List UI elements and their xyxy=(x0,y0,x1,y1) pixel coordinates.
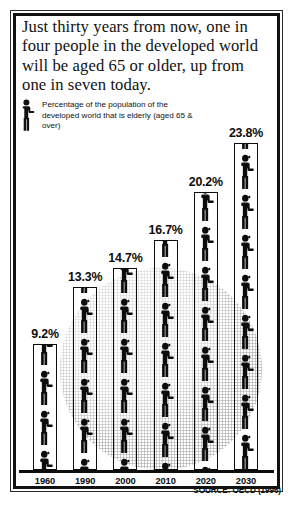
bar-1990 xyxy=(73,287,97,470)
bar-1960 xyxy=(33,344,57,471)
source-note: SOURCE: OECD (1996) xyxy=(193,486,281,495)
person-figure-icon xyxy=(114,377,136,417)
bar-2030 xyxy=(234,143,258,470)
person-figure-icon xyxy=(74,287,96,297)
x-axis-label-2030: 2030 xyxy=(224,476,268,486)
person-figure-icon xyxy=(195,385,217,425)
pictogram-stack xyxy=(114,268,136,469)
pictogram-stack xyxy=(195,192,217,469)
person-figure-icon xyxy=(74,457,96,470)
pictogram-stack xyxy=(235,143,257,469)
pictogram-stack xyxy=(155,240,177,469)
person-figure-icon xyxy=(114,297,136,337)
person-figure-icon xyxy=(155,341,177,381)
person-figure-icon xyxy=(114,337,136,377)
person-figure-icon xyxy=(235,193,257,233)
bar-value-label-2020: 20.2% xyxy=(180,175,232,189)
bar-2020 xyxy=(194,192,218,470)
bar-value-label-1960: 9.2% xyxy=(19,327,71,341)
x-axis-line xyxy=(19,470,274,473)
person-figure-icon xyxy=(74,297,96,337)
bar-value-label-2000: 14.7% xyxy=(99,251,151,265)
x-axis-label-2020: 2020 xyxy=(184,476,228,486)
x-axis-label-1960: 1960 xyxy=(23,476,67,486)
infographic-poster: Just thirty years from now, one in four … xyxy=(0,0,297,511)
person-figure-icon xyxy=(235,353,257,393)
person-figure-icon xyxy=(74,417,96,457)
person-figure-icon xyxy=(155,421,177,461)
pictogram-stack xyxy=(34,344,56,470)
bar-2000 xyxy=(113,268,137,470)
person-figure-icon xyxy=(114,417,136,457)
person-figure-icon xyxy=(34,369,56,409)
person-figure-icon xyxy=(34,449,56,470)
person-figure-icon xyxy=(34,344,56,370)
person-figure-icon xyxy=(155,461,177,470)
person-figure-icon xyxy=(114,268,136,297)
bar-value-label-1990: 13.3% xyxy=(59,270,111,284)
person-figure-icon xyxy=(195,225,217,265)
person-figure-icon xyxy=(235,143,257,153)
person-figure-icon xyxy=(235,233,257,273)
pictogram-stack xyxy=(74,287,96,469)
bar-value-label-2030: 23.8% xyxy=(220,126,272,140)
bar-value-label-2010: 16.7% xyxy=(140,223,192,237)
person-figure-icon xyxy=(155,381,177,421)
person-figure-icon xyxy=(195,192,217,225)
x-axis-label-2000: 2000 xyxy=(103,476,147,486)
person-figure-icon xyxy=(235,393,257,433)
person-figure-icon xyxy=(34,409,56,449)
person-figure-icon xyxy=(114,457,136,470)
person-figure-icon xyxy=(235,433,257,470)
person-figure-icon xyxy=(155,301,177,341)
person-figure-icon xyxy=(74,377,96,417)
person-figure-icon xyxy=(74,337,96,377)
chart-plot-area: 9.2%13.3%14.7%16.7%20.2%23.8% 1960199020… xyxy=(16,16,277,471)
bar-2010 xyxy=(154,240,178,470)
x-axis-label-1990: 1990 xyxy=(63,476,107,486)
person-figure-icon xyxy=(155,261,177,301)
person-figure-icon xyxy=(235,273,257,313)
person-figure-icon xyxy=(195,305,217,345)
person-figure-icon xyxy=(195,345,217,385)
x-axis-label-2010: 2010 xyxy=(144,476,188,486)
person-figure-icon xyxy=(195,425,217,465)
person-figure-icon xyxy=(195,265,217,305)
person-figure-icon xyxy=(155,240,177,261)
person-figure-icon xyxy=(235,153,257,193)
person-figure-icon xyxy=(235,313,257,353)
